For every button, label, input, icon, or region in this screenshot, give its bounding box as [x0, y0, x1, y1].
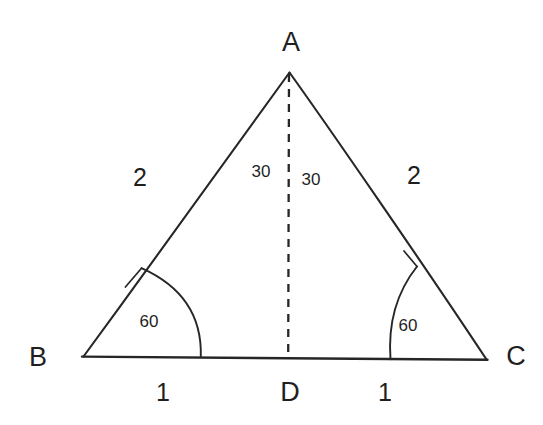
angle-label-b: 60: [140, 312, 159, 332]
side-length-label-ac: 2: [407, 161, 421, 190]
triangle-diagram-svg: [0, 0, 543, 425]
angle-label-c: 60: [399, 316, 418, 336]
angle-arc-b-tick: [125, 268, 141, 287]
vertex-label-a: A: [282, 27, 300, 58]
vertex-label-b: B: [29, 342, 47, 373]
angle-label-bad: 30: [252, 162, 271, 182]
triangle-side-ab: [84, 73, 290, 357]
angle-arc-c: [390, 267, 417, 360]
side-length-label-dc: 1: [378, 378, 392, 407]
side-length-label-ab: 2: [133, 163, 147, 192]
altitude-line-ad: [288, 74, 289, 357]
vertex-label-d: D: [280, 377, 300, 408]
side-length-label-bd: 1: [156, 378, 170, 407]
vertex-label-c: C: [506, 341, 526, 372]
triangle-side-ac: [290, 73, 487, 360]
angle-label-dac: 30: [302, 170, 321, 190]
triangle-side-bc: [82, 357, 488, 360]
geometry-diagram-canvas: A B C D 2 2 1 1 30 30 60 60: [0, 0, 543, 425]
